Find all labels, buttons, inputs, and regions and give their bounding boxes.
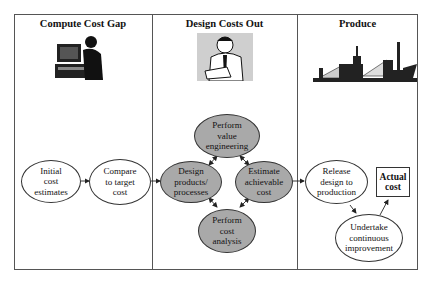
node-compare-to-target-cost: Compare to target cost [89,159,151,205]
node-undertake-continuous-improvement: Undertake continuous improvement [335,214,403,262]
node-release-design-to-production: Release design to production [305,160,368,204]
node-estimate-achievable-cost: Estimate achievable cost [235,161,293,203]
node-perform-value-engineering: Perform value engineering [194,114,260,158]
node-design-products-processes: Design products/ processes [160,161,222,203]
node-initial-cost-estimates: Initial cost estimates [21,160,81,203]
node-perform-cost-analysis: Perform cost analysis [198,209,256,253]
node-actual-cost: Actual cost [376,167,410,197]
